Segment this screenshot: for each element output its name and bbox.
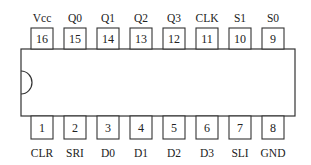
top-pin-row: 16Vcc15Q014Q113Q212Q311CLK10S19S0	[31, 12, 284, 49]
pin-label: Q1	[101, 12, 115, 24]
pin-label: SLI	[231, 147, 248, 159]
pin-label: S1	[234, 12, 246, 24]
pin-label: D1	[134, 147, 148, 159]
chip-body	[21, 49, 295, 116]
pin-number: 5	[171, 121, 177, 135]
pin-number: 7	[237, 121, 243, 135]
pin-label: Q3	[167, 12, 181, 24]
pin-number: 15	[69, 32, 81, 46]
pin-14: 14Q1	[97, 12, 119, 49]
pin-5: 5D2	[163, 116, 185, 159]
pin-2: 2SRI	[64, 116, 86, 159]
pin-4: 4D1	[130, 116, 152, 159]
bottom-pin-row: 1CLR2SRI3D04D15D26D37SLI8GND	[31, 116, 286, 159]
pin-number: 12	[168, 32, 180, 46]
pin-number: 1	[39, 121, 45, 135]
pin-number: 9	[270, 32, 276, 46]
pin-label: D2	[167, 147, 181, 159]
pin-number: 4	[138, 121, 144, 135]
pin-number: 14	[102, 32, 114, 46]
pin-label: D0	[101, 147, 115, 159]
pin-label: GND	[261, 147, 286, 159]
pin-label: CLK	[196, 12, 220, 24]
pin-number: 8	[270, 121, 276, 135]
pin-11: 11CLK	[196, 12, 220, 49]
pin-9: 9S0	[262, 12, 284, 49]
pin-15: 15Q0	[64, 12, 86, 49]
pin-6: 6D3	[196, 116, 218, 159]
pin-label: S0	[267, 12, 279, 24]
pin-3: 3D0	[97, 116, 119, 159]
pin-label: CLR	[31, 147, 54, 159]
pin-number: 3	[105, 121, 111, 135]
pin-12: 12Q3	[163, 12, 185, 49]
pin-number: 13	[135, 32, 147, 46]
pin-16: 16Vcc	[31, 12, 53, 49]
pin-label: Q0	[68, 12, 82, 24]
pin-7: 7SLI	[229, 116, 251, 159]
pin-number: 10	[234, 32, 246, 46]
pin-number: 2	[72, 121, 78, 135]
pin-label: SRI	[66, 147, 84, 159]
pin-1: 1CLR	[31, 116, 54, 159]
pin-13: 13Q2	[130, 12, 152, 49]
pin-number: 6	[204, 121, 210, 135]
pin-label: Q2	[134, 12, 148, 24]
pin-label: D3	[200, 147, 214, 159]
pin-8: 8GND	[261, 116, 286, 159]
pin-number: 11	[201, 32, 213, 46]
ic-pinout-diagram: 16Vcc15Q014Q113Q212Q311CLK10S19S0 1CLR2S…	[0, 0, 311, 165]
pin-10: 10S1	[229, 12, 251, 49]
pin-label: Vcc	[33, 12, 52, 24]
pin-number: 16	[36, 32, 48, 46]
